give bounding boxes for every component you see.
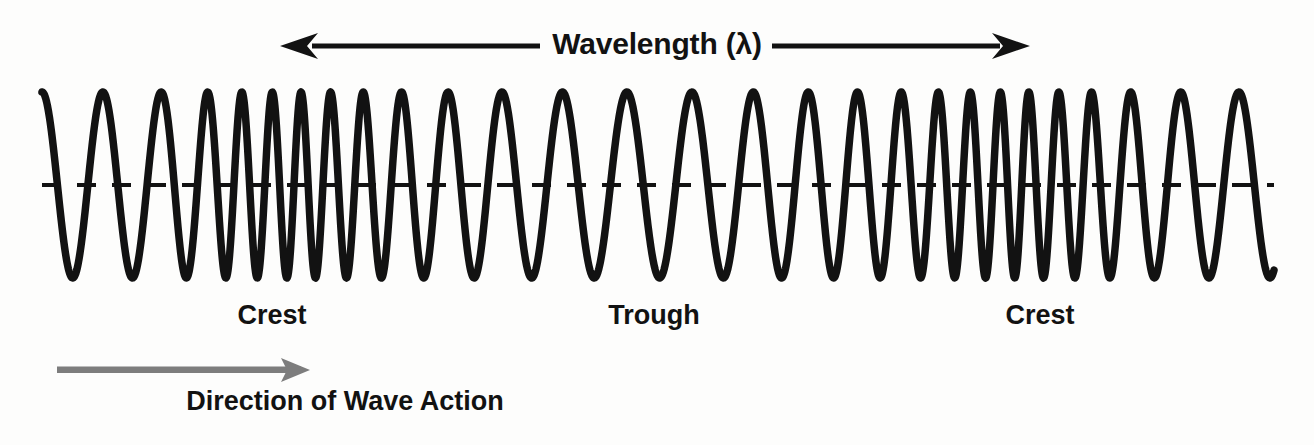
wave-diagram: Wavelength (λ) Crest Trough Crest Direct… [0, 0, 1314, 445]
direction-of-wave-action-arrow-icon [0, 0, 1314, 445]
direction-of-wave-action-label: Direction of Wave Action [186, 386, 504, 417]
